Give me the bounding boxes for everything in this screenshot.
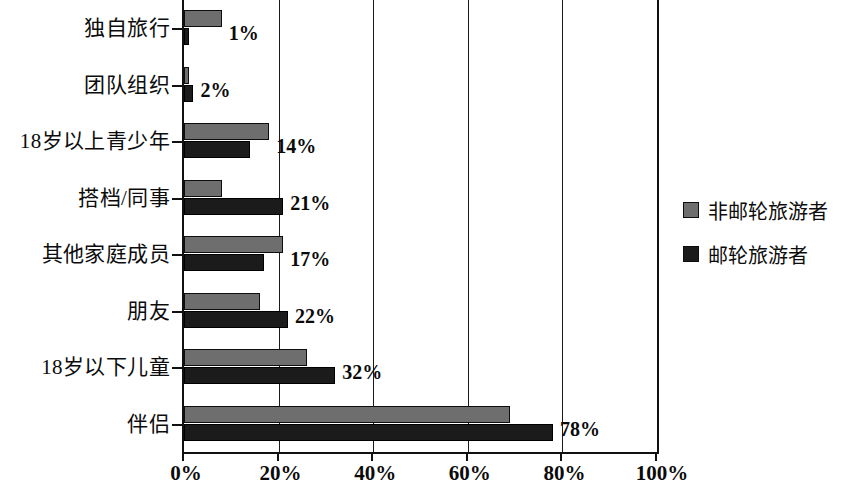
y-axis-tick — [172, 141, 182, 143]
y-axis-label: 团队组织 — [84, 57, 170, 114]
x-axis-tick-label: 0% — [170, 461, 202, 486]
bar-cruise — [184, 311, 288, 328]
bar-group: 21% — [184, 170, 657, 227]
bar-value-label: 32% — [342, 361, 382, 384]
bar-non-cruise — [184, 406, 510, 423]
bar-group: 32% — [184, 339, 657, 396]
y-axis-tick — [172, 311, 182, 313]
bar-cruise — [184, 424, 553, 441]
bar-group: 22% — [184, 283, 657, 340]
chart-legend: 非邮轮旅游者 邮轮旅游者 — [683, 188, 853, 276]
bar-value-label: 17% — [290, 248, 330, 271]
legend-swatch-icon — [683, 202, 699, 218]
x-axis-tick — [560, 452, 562, 461]
y-axis-label: 其他家庭成员 — [42, 226, 170, 283]
y-axis-label: 18岁以下儿童 — [41, 339, 170, 396]
legend-label: 非邮轮旅游者 — [708, 196, 828, 225]
bar-group: 1% — [184, 0, 657, 57]
bar-cruise — [184, 28, 189, 45]
x-axis-tick — [277, 452, 279, 461]
x-axis-tick-label: 100% — [636, 461, 689, 486]
bar-value-label: 14% — [276, 135, 316, 158]
bar-non-cruise — [184, 236, 283, 253]
bar-cruise — [184, 85, 193, 102]
bar-group: 17% — [184, 226, 657, 283]
bar-value-label: 2% — [200, 79, 230, 102]
bar-non-cruise — [184, 10, 222, 27]
bar-group: 2% — [184, 57, 657, 114]
bar-value-label: 21% — [290, 192, 330, 215]
bar-group: 78% — [184, 396, 657, 453]
legend-item-non-cruise: 非邮轮旅游者 — [683, 188, 853, 232]
y-axis-tick — [172, 198, 182, 200]
y-axis-tick — [172, 85, 182, 87]
y-axis-tick — [172, 367, 182, 369]
legend-swatch-icon — [683, 246, 699, 262]
x-axis-tick — [182, 452, 184, 461]
legend-item-cruise: 邮轮旅游者 — [683, 232, 853, 276]
x-axis-tick — [371, 452, 373, 461]
x-axis-tick — [655, 452, 657, 461]
x-axis-tick-label: 60% — [449, 461, 491, 486]
bar-chart: 独自旅行 团队组织 18岁以上青少年 搭档/同事 其他家庭成员 朋友 18岁以下… — [0, 0, 853, 490]
bar-cruise — [184, 141, 250, 158]
bar-non-cruise — [184, 349, 307, 366]
bar-value-label: 22% — [295, 305, 335, 328]
x-axis-tick-label: 80% — [543, 461, 585, 486]
bar-cruise — [184, 367, 335, 384]
bar-non-cruise — [184, 293, 260, 310]
x-axis-tick-label: 40% — [354, 461, 396, 486]
bar-cruise — [184, 198, 283, 215]
y-axis-label: 搭档/同事 — [78, 170, 170, 227]
plot-area: 1% 2% 14% 21% 17% 22% — [182, 0, 659, 454]
x-axis-tick — [466, 452, 468, 461]
y-axis-label: 伴侣 — [127, 396, 170, 453]
y-axis-tick — [172, 28, 182, 30]
y-axis-tick — [172, 254, 182, 256]
bar-group: 14% — [184, 113, 657, 170]
bar-non-cruise — [184, 123, 269, 140]
y-axis-label: 18岁以上青少年 — [20, 113, 170, 170]
bar-value-label: 1% — [229, 22, 259, 45]
y-axis-label: 朋友 — [127, 283, 170, 340]
bar-value-label: 78% — [560, 418, 600, 441]
legend-label: 邮轮旅游者 — [708, 240, 808, 269]
x-axis-tick-label: 20% — [260, 461, 302, 486]
bar-non-cruise — [184, 180, 222, 197]
bar-cruise — [184, 254, 264, 271]
y-axis-tick — [172, 424, 182, 426]
bar-non-cruise — [184, 67, 189, 84]
y-axis-category-labels: 独自旅行 团队组织 18岁以上青少年 搭档/同事 其他家庭成员 朋友 18岁以下… — [0, 0, 176, 452]
y-axis-label: 独自旅行 — [84, 0, 170, 57]
